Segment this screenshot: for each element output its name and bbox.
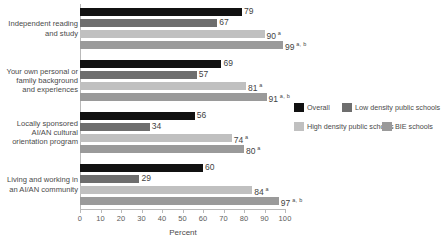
bar-value-label: 90 a [267, 29, 282, 41]
category-label-line: Your own personal or [4, 67, 78, 76]
category-label-line: family background [4, 76, 78, 85]
bar[interactable] [80, 30, 265, 38]
bar-value-annotation: a, b [290, 197, 302, 203]
bar-value-annotation: a [264, 186, 269, 192]
bar-row[interactable]: 67 [80, 19, 285, 27]
bar-row[interactable]: 81 a [80, 82, 285, 90]
legend-swatch [342, 103, 352, 112]
bar-value-label: 57 [199, 70, 208, 79]
legend-row: OverallLow density public schools [294, 103, 442, 122]
x-axis-tick [203, 209, 204, 213]
x-axis-title: Percent [80, 228, 286, 237]
bar-value-label: 97 a, b [281, 196, 303, 208]
legend-label: Overall [307, 103, 330, 112]
bar-value-label: 79 [244, 7, 253, 16]
bar[interactable] [80, 8, 242, 16]
category-label-line: and experiences [4, 85, 78, 94]
category-label: Independent readingand study [4, 19, 78, 37]
category-label: Your own personal orfamily backgroundand… [4, 67, 78, 95]
bar-value-annotation: a [258, 82, 263, 88]
bar-row[interactable]: 60 [80, 164, 285, 172]
bar-value-label: 91 a, b [269, 92, 291, 104]
category-label-line: and study [4, 29, 78, 38]
bar-row[interactable]: 99 a, b [80, 41, 285, 49]
bar[interactable] [80, 164, 203, 172]
chart-legend: OverallLow density public schoolsHigh de… [294, 103, 442, 141]
category-label-line: an AI/AN community [4, 185, 78, 194]
x-axis-tick [80, 209, 81, 213]
bar[interactable] [80, 41, 283, 49]
legend-item[interactable]: High density public schools [294, 122, 394, 131]
bar-value-annotation: a [276, 30, 281, 36]
bar-row[interactable]: 90 a [80, 30, 285, 38]
x-axis-tick [285, 209, 286, 213]
legend-item[interactable]: Overall [294, 103, 330, 112]
bar-value-label: 69 [223, 59, 232, 68]
category-label: Locally sponsoredAI/AN culturalorientati… [4, 119, 78, 147]
bar-row[interactable]: 97 a, b [80, 197, 285, 205]
bar-row[interactable]: 57 [80, 71, 285, 79]
bar[interactable] [80, 71, 197, 79]
bar[interactable] [80, 145, 244, 153]
bar-row[interactable]: 91 a, b [80, 93, 285, 101]
bar[interactable] [80, 82, 246, 90]
legend-row: High density public schoolsBIE schools [294, 122, 442, 141]
category-label-line: AI/AN cultural [4, 128, 78, 137]
x-axis-tick [183, 209, 184, 213]
bar[interactable] [80, 93, 267, 101]
bar-value-annotation: a, b [278, 93, 290, 99]
bar-row[interactable]: 34 [80, 123, 285, 131]
bar[interactable] [80, 186, 252, 194]
bar-value-label: 80 a [246, 144, 261, 156]
bar[interactable] [80, 19, 217, 27]
legend-item[interactable]: BIE schools [382, 122, 433, 131]
category-label: Living and working inan AI/AN community [4, 175, 78, 193]
bar-value-label: 67 [219, 18, 228, 27]
legend-swatch [382, 122, 392, 131]
x-axis-tick [265, 209, 266, 213]
legend-label: BIE schools [395, 122, 433, 131]
category-label-line: Living and working in [4, 175, 78, 184]
bar-value-label: 60 [205, 163, 214, 172]
category-label-line: Locally sponsored [4, 119, 78, 128]
bar[interactable] [80, 123, 150, 131]
legend-item[interactable]: Low density public schools [342, 103, 440, 112]
bar[interactable] [80, 197, 279, 205]
x-axis-tick [244, 209, 245, 213]
bar-value-label: 84 a [254, 185, 269, 197]
legend-label: High density public schools [307, 122, 394, 131]
legend-swatch [294, 103, 304, 112]
bar[interactable] [80, 112, 195, 120]
bar[interactable] [80, 60, 221, 68]
bar-row[interactable]: 74 a [80, 134, 285, 142]
bar-value-label: 99 a, b [285, 40, 307, 52]
bar-row[interactable]: 69 [80, 60, 285, 68]
bar-row[interactable]: 79 [80, 8, 285, 16]
x-axis-tick [162, 209, 163, 213]
bar-value-annotation: a [255, 145, 260, 151]
x-axis-tick [101, 209, 102, 213]
bar-chart: Independent readingand studyYour own per… [0, 0, 442, 241]
bar-row[interactable]: 80 a [80, 145, 285, 153]
bar[interactable] [80, 175, 139, 183]
bar-value-label: 34 [152, 122, 161, 131]
bar-value-label: 81 a [248, 81, 263, 93]
x-axis-tick [224, 209, 225, 213]
bar-value-annotation: a [243, 134, 248, 140]
bar-value-label: 56 [197, 111, 206, 120]
bar-row[interactable]: 29 [80, 175, 285, 183]
category-label-line: Independent reading [4, 19, 78, 28]
category-label-line: orientation program [4, 137, 78, 146]
x-axis-tick-label: 100 [273, 214, 297, 223]
bar-value-annotation: a, b [294, 41, 306, 47]
bar-row[interactable]: 84 a [80, 186, 285, 194]
bar-value-label: 29 [141, 174, 150, 183]
legend-swatch [294, 122, 304, 131]
x-axis-tick [142, 209, 143, 213]
legend-label: Low density public schools [355, 103, 440, 112]
plot-area: 796790 a99 a, b695781 a91 a, b563474 a80… [80, 4, 285, 207]
x-axis-tick [121, 209, 122, 213]
bar-row[interactable]: 56 [80, 112, 285, 120]
bar[interactable] [80, 134, 232, 142]
